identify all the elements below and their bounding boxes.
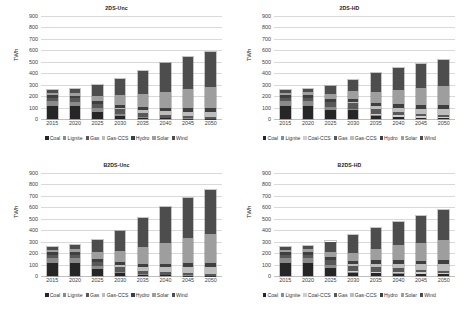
y-axis-ticks: 9008007006005004003002001000	[245, 16, 271, 119]
chart-panel-2ds-hd: 2DS-HD TWh 9008007006005004003002001000 …	[233, 0, 466, 157]
bar-segment-wind	[371, 73, 382, 92]
legend-item-gas-ccs: Gas-CCS	[350, 135, 376, 141]
bar-segment-wind	[92, 240, 103, 253]
plot-area	[41, 173, 222, 276]
x-tick-label: 2040	[154, 120, 177, 126]
chart-legend: CoalLigniteCoal-CCSGasGas-CCSHydroSolarW…	[233, 292, 466, 298]
legend-label: Wind	[424, 292, 436, 298]
stacked-bar	[205, 190, 216, 276]
bar-group	[365, 173, 388, 276]
bar-group	[132, 173, 155, 276]
x-tick-label: 2030	[342, 120, 365, 126]
bar-series	[274, 173, 455, 276]
y-tick-label: 300	[262, 82, 271, 88]
legend-label: Gas	[90, 135, 99, 141]
legend-swatch	[401, 136, 404, 139]
bar-segment-wind	[160, 207, 171, 243]
stacked-bar	[371, 228, 382, 276]
legend-label: Wind	[176, 292, 188, 298]
legend-swatch	[172, 136, 175, 139]
bar-group	[64, 16, 87, 119]
y-tick-label: 100	[262, 105, 271, 111]
x-tick-label: 2045	[177, 120, 200, 126]
bar-segment-wind	[325, 242, 336, 252]
x-tick-label: 2040	[387, 120, 410, 126]
bar-segment-wind	[115, 231, 126, 251]
stacked-bar	[393, 68, 404, 120]
legend-swatch	[281, 293, 284, 296]
y-tick-label: 800	[29, 24, 38, 30]
bar-segment-wind	[393, 222, 404, 245]
bar-segment-wind	[183, 198, 194, 239]
x-tick-label: 2020	[64, 277, 87, 283]
x-tick-label: 2050	[199, 120, 222, 126]
legend-item-coal: Coal	[263, 135, 278, 141]
bar-segment-wind	[393, 68, 404, 91]
y-tick-label: 700	[262, 36, 271, 42]
stacked-bar	[348, 235, 359, 276]
legend-swatch	[86, 293, 89, 296]
stacked-bar	[160, 207, 171, 276]
bar-group	[319, 173, 342, 276]
y-tick-label: 300	[29, 239, 38, 245]
legend-item-gas-ccs: Gas-CCS	[102, 135, 128, 141]
bar-segment-wind	[438, 60, 449, 87]
y-tick-label: 400	[29, 227, 38, 233]
x-tick-label: 2050	[432, 120, 455, 126]
legend-item-wind: Wind	[420, 292, 436, 298]
bar-group	[297, 173, 320, 276]
bar-segment-coal	[393, 274, 404, 276]
legend-item-hydro: Hydro	[131, 292, 149, 298]
legend-label: Hydro	[384, 292, 398, 298]
bar-segment-solar	[393, 245, 404, 260]
legend-swatch	[263, 136, 266, 139]
bar-group	[109, 173, 132, 276]
x-tick-label: 2030	[342, 277, 365, 283]
x-tick-label: 2030	[109, 277, 132, 283]
legend-item-lignite: Lignite	[63, 135, 82, 141]
bar-segment-solar	[183, 89, 194, 108]
legend-swatch	[45, 293, 48, 296]
bar-group	[432, 16, 455, 119]
y-tick-label: 700	[29, 193, 38, 199]
bar-segment-coal	[438, 274, 449, 276]
stacked-bar	[393, 222, 404, 276]
legend-item-gas: Gas	[334, 292, 348, 298]
bar-group	[297, 16, 320, 119]
bar-group	[177, 173, 200, 276]
y-tick-label: 900	[262, 170, 271, 176]
stacked-bar	[325, 86, 336, 119]
bar-segment-solar	[183, 238, 194, 263]
bar-segment-solar	[138, 247, 149, 263]
y-tick-label: 700	[29, 36, 38, 42]
legend-item-solar: Solar	[152, 292, 168, 298]
chart-title: B2DS-Unc	[0, 162, 233, 168]
bar-segment-solar	[348, 91, 359, 99]
bar-segment-solar	[371, 249, 382, 261]
legend-label: Gas-CCS	[355, 292, 377, 298]
bar-group	[154, 173, 177, 276]
bar-group	[86, 16, 109, 119]
legend-label: Gas	[338, 292, 347, 298]
legend-item-coal: Coal	[45, 135, 60, 141]
y-tick-label: 200	[29, 93, 38, 99]
legend-item-solar: Solar	[152, 135, 168, 141]
y-tick-label: 500	[262, 59, 271, 65]
legend-swatch	[401, 293, 404, 296]
x-axis-ticks: 20152020202520302035204020452050	[274, 120, 455, 126]
y-tick-label: 900	[29, 170, 38, 176]
bar-segment-coal	[371, 116, 382, 119]
bar-segment-wind	[371, 228, 382, 249]
legend-label: Gas	[90, 292, 99, 298]
x-tick-label: 2020	[297, 120, 320, 126]
stacked-bar	[303, 246, 314, 276]
bar-segment-solar	[438, 240, 449, 260]
legend-item-coal: Coal	[45, 292, 60, 298]
bar-segment-wind	[348, 80, 359, 92]
legend-swatch	[350, 136, 353, 139]
bar-group	[432, 173, 455, 276]
legend-swatch	[102, 293, 105, 296]
legend-swatch	[63, 293, 66, 296]
bar-segment-solar	[205, 234, 216, 262]
bar-segment-coal	[70, 106, 81, 119]
